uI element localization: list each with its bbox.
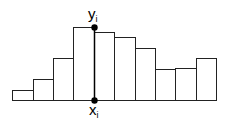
histogram-bar [197,59,217,101]
histogram-bar [54,59,74,101]
label-y-base: y [88,5,96,22]
histogram-bar [74,28,95,101]
label-x-base: x [89,101,97,118]
histogram-diagram [0,0,229,122]
label-x-i: xi [89,102,99,117]
histogram-bar [156,70,176,101]
label-y-subscript: i [96,14,98,24]
label-x-subscript: i [97,110,99,120]
histogram-bar [95,33,115,101]
histogram-bar [34,80,54,101]
point-y-i-dot [91,24,97,30]
label-y-i: yi [88,6,98,21]
histogram-bar [176,69,197,101]
histogram-bar [13,91,34,101]
histogram-bar [136,49,156,101]
histogram-bar [115,38,136,101]
